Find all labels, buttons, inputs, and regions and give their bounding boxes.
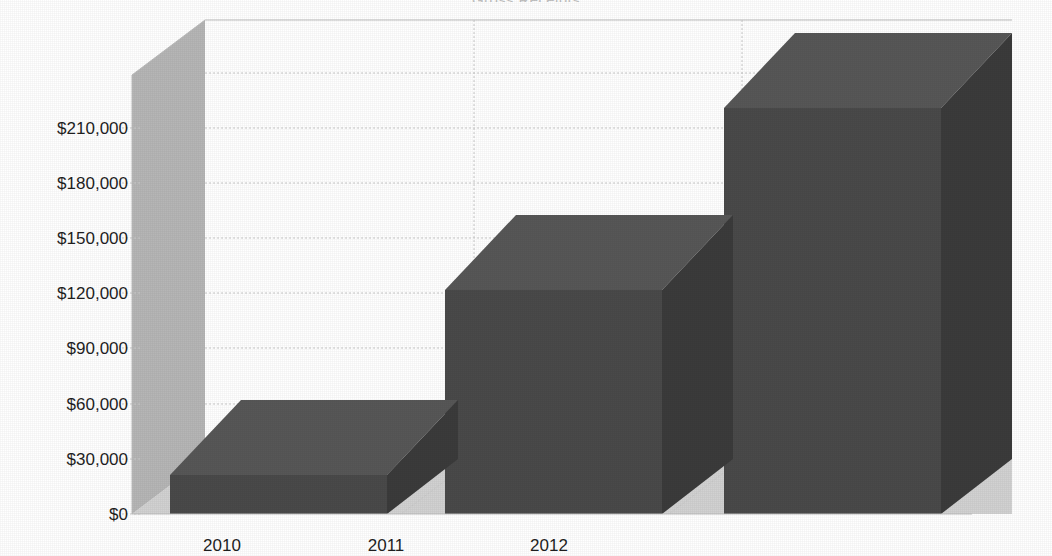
chart-container: Gross Receipts [0,0,1052,556]
x-tick-label-2010: 2010 [203,537,241,554]
x-tick-label-2012: 2012 [530,537,568,554]
x-tick-label-2011: 2011 [368,537,405,554]
x-axis: 2010 2011 2012 [0,0,1052,556]
